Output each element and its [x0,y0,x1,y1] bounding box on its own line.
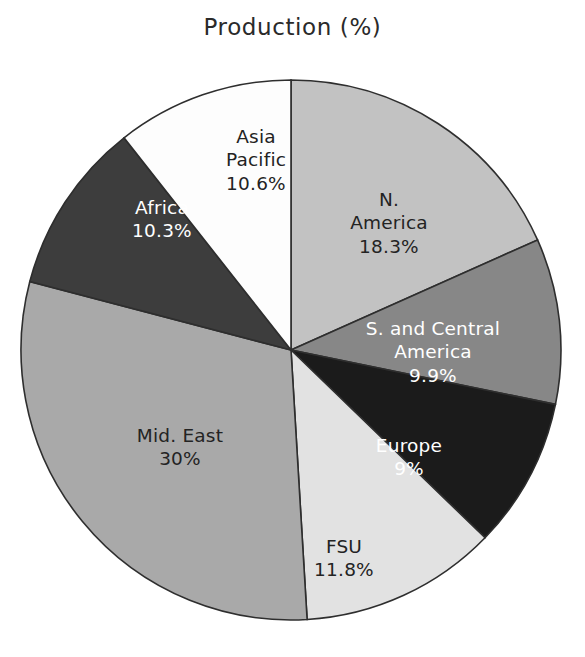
figure-caption [0,646,585,657]
pie-chart-figure: Production (%) N. America 18.3% S. and C… [0,0,585,657]
pie-chart-canvas [0,0,585,657]
pie-slice-group [21,80,561,620]
